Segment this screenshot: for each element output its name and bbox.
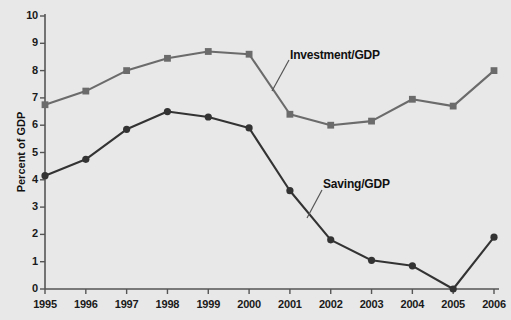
series-label-saving: Saving/GDP	[323, 177, 390, 191]
x-tick-label: 2006	[469, 298, 511, 310]
series-label-investment: Investment/GDP	[290, 48, 380, 62]
y-tick-label: 0	[8, 282, 38, 294]
y-tick-label: 5	[8, 146, 38, 158]
annotation-leader-lines	[272, 60, 322, 218]
chart-series	[41, 48, 497, 293]
y-tick-label: 10	[8, 9, 38, 21]
y-tick-label: 7	[8, 91, 38, 103]
y-tick-label: 8	[8, 64, 38, 76]
y-tick-label: 9	[8, 36, 38, 48]
chart-axes	[40, 14, 499, 294]
y-tick-label: 4	[8, 173, 38, 185]
y-tick-label: 2	[8, 227, 38, 239]
y-tick-label: 3	[8, 200, 38, 212]
y-tick-label: 6	[8, 118, 38, 130]
y-tick-label: 1	[8, 255, 38, 267]
